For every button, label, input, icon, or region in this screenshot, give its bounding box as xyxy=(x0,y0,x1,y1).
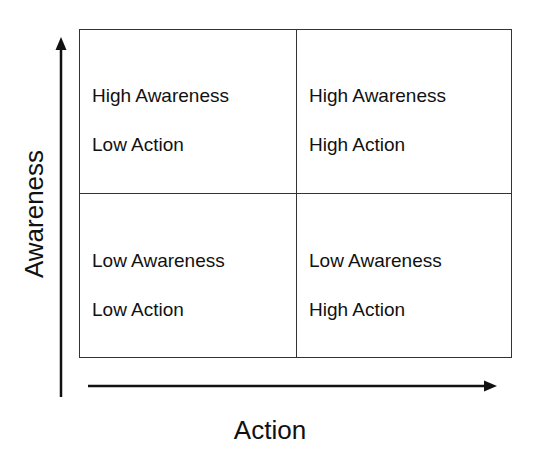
quadrant-action-label: Low Action xyxy=(92,135,184,154)
quadrant-action-label: High Action xyxy=(309,135,405,154)
matrix-grid: High Awareness Low Action High Awareness… xyxy=(79,29,512,358)
quadrant-awareness-label: High Awareness xyxy=(309,86,446,105)
quadrant-action-label: High Action xyxy=(309,300,405,319)
x-axis-label: Action xyxy=(234,415,306,446)
y-axis-arrow xyxy=(56,37,67,397)
quadrant-awareness-label: Low Awareness xyxy=(309,251,442,270)
horizontal-divider xyxy=(80,193,511,194)
quadrant-awareness-label: High Awareness xyxy=(92,86,229,105)
y-axis-label: Awareness xyxy=(19,150,50,278)
x-axis-arrow xyxy=(88,381,497,392)
quadrant-awareness-label: Low Awareness xyxy=(92,251,225,270)
quadrant-action-label: Low Action xyxy=(92,300,184,319)
